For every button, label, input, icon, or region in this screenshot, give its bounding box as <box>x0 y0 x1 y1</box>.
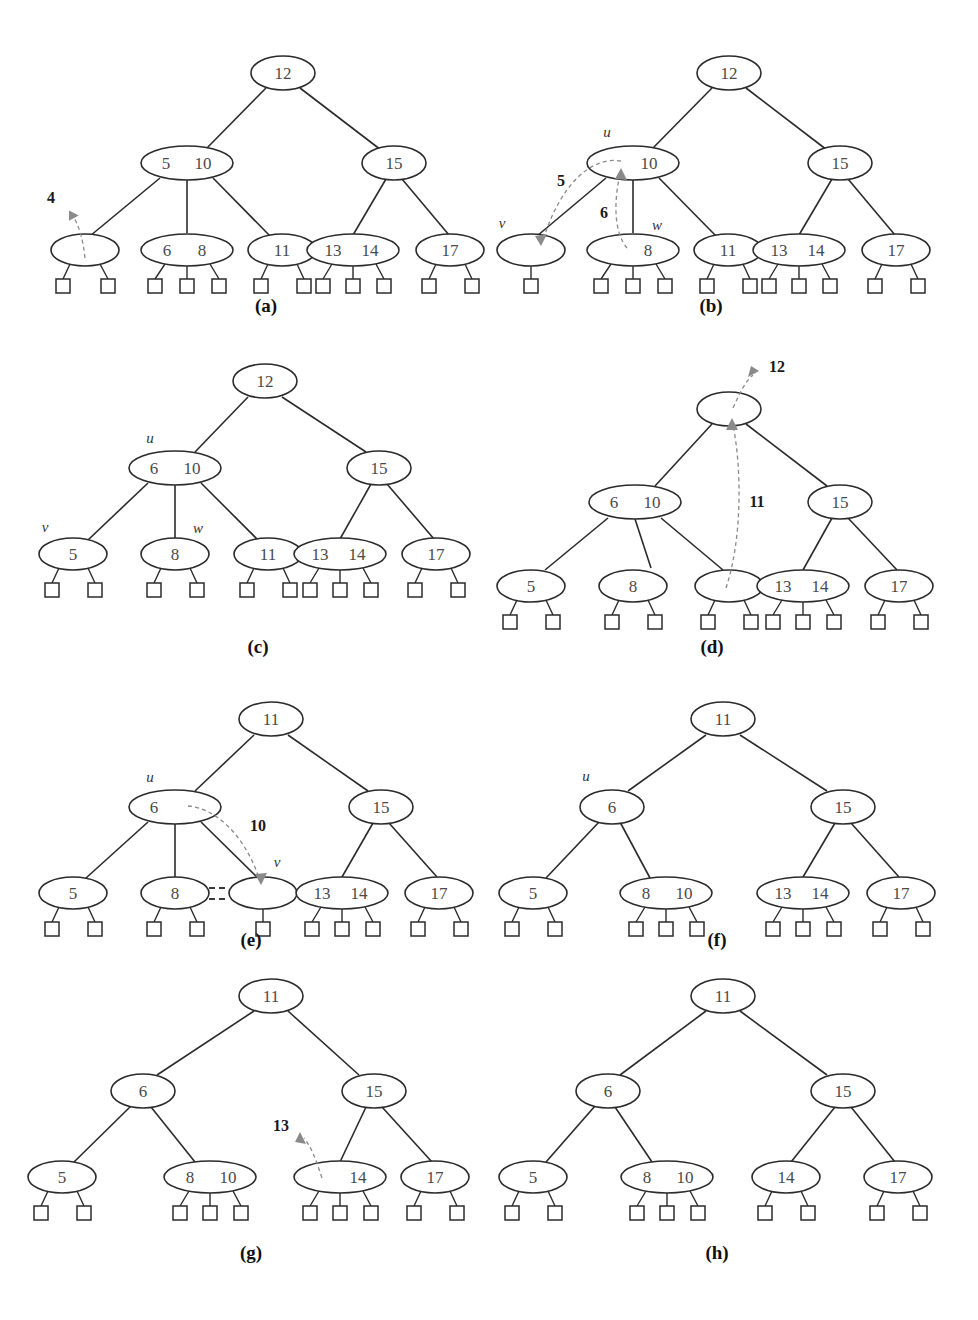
node-leaf-5-b: 17 <box>862 234 930 293</box>
external-leaf <box>827 922 841 936</box>
external-leaf <box>659 922 673 936</box>
node-v-c: 5 <box>39 538 107 597</box>
node-leaf-4-a: 13 14 <box>307 234 399 293</box>
node-v-b <box>497 234 565 293</box>
external-leaf <box>254 279 268 293</box>
edge-root-left <box>651 88 712 150</box>
node-leaf-2-g: 8 10 <box>164 1161 256 1220</box>
edge-r-c1 <box>342 823 373 877</box>
node-internal-left-g: 6 <box>111 1074 175 1108</box>
key-text: 5 <box>69 545 78 564</box>
external-leaf <box>873 922 887 936</box>
node-internal-right-g: 15 <box>342 1074 406 1108</box>
external-leaf <box>701 615 715 629</box>
key-text: 15 <box>371 459 388 478</box>
external-leaf <box>823 279 837 293</box>
edge-root-right <box>746 88 827 150</box>
external-leaf <box>173 1206 187 1220</box>
edge-r-c1 <box>791 1107 835 1162</box>
node-leaf-2-h: 8 10 <box>621 1161 713 1220</box>
key-text: 11 <box>274 241 290 260</box>
external-leaf <box>744 615 758 629</box>
external-leaf <box>505 1206 519 1220</box>
external-leaf <box>758 1206 772 1220</box>
external-leaf <box>868 279 882 293</box>
external-leaf <box>333 583 347 597</box>
key-text: 17 <box>431 884 449 903</box>
external-leaf <box>335 922 349 936</box>
edge-root-left <box>628 735 706 791</box>
node-leaf-5-a: 17 <box>416 234 484 293</box>
move-11-curve <box>726 425 739 588</box>
key-text: 17 <box>427 1168 445 1187</box>
edge-l-c1 <box>546 1106 595 1162</box>
external-leaf <box>911 279 925 293</box>
node-leaf-4-b: 13 14 <box>753 234 845 293</box>
key-text: 14 <box>350 1168 368 1187</box>
tree-deletion-figure: 12 5 10 15 6 8 11 <box>0 0 978 1320</box>
edge-u-c1 <box>537 178 606 236</box>
node-root-e: 11 <box>239 702 303 736</box>
key-text: 15 <box>835 1082 852 1101</box>
key-text: 5 <box>69 884 78 903</box>
panel-g: 11 6 15 5 8 10 14 <box>28 979 469 1264</box>
node-root-f: 11 <box>691 702 755 736</box>
node-u-f: 6 <box>580 790 644 824</box>
external-leaf <box>411 922 425 936</box>
edge-l-c2 <box>151 1107 195 1162</box>
key-text: 13 <box>775 884 792 903</box>
external-leaf <box>303 1206 317 1220</box>
external-leaf <box>505 922 519 936</box>
node-internal-right-h: 15 <box>811 1074 875 1108</box>
external-leaf <box>147 922 161 936</box>
edge-r-c1 <box>803 518 832 570</box>
node-leaf-1-d: 5 <box>497 570 565 629</box>
key-text: 6 <box>608 798 617 817</box>
key-text: 17 <box>893 884 911 903</box>
node-leaf-5-g: 17 <box>401 1161 469 1220</box>
external-leaf <box>792 279 806 293</box>
external-leaf <box>690 922 704 936</box>
key-text: 14 <box>349 545 367 564</box>
external-leaf <box>629 922 643 936</box>
move-13-label: 13 <box>273 1117 289 1134</box>
key-text: 14 <box>362 241 380 260</box>
node-leaf-4-e: 13 14 <box>296 877 388 936</box>
external-leaf <box>914 615 928 629</box>
edge-root-right <box>288 1011 359 1075</box>
key-text: 15 <box>832 154 849 173</box>
external-leaf <box>147 583 161 597</box>
external-leaf <box>407 1206 421 1220</box>
external-leaf <box>190 922 204 936</box>
key-text: 10 <box>184 459 201 478</box>
external-leaf <box>346 279 360 293</box>
external-leaf <box>56 279 70 293</box>
node-leaf-3-c: 11 <box>234 538 302 597</box>
key-text: 17 <box>890 1168 908 1187</box>
external-leaf <box>465 279 479 293</box>
node-root-c: 12 <box>233 364 297 398</box>
node-leaf-2-a: 6 8 <box>141 234 233 293</box>
external-leaf <box>871 615 885 629</box>
external-leaf <box>766 615 780 629</box>
external-leaf <box>913 1206 927 1220</box>
external-leaf <box>454 922 468 936</box>
node-leaf-2-f: 8 10 <box>620 877 712 936</box>
move-12-label: 12 <box>769 358 785 375</box>
label-v: v <box>274 854 281 870</box>
key-text: 12 <box>275 64 292 83</box>
move-11-label: 11 <box>749 493 764 510</box>
panel-f: 11 6 u 15 5 8 10 13 <box>499 702 935 951</box>
key-text: 8 <box>644 241 653 260</box>
panel-label-d: (d) <box>700 636 723 658</box>
node-leaf-4-g: 14 <box>294 1161 386 1220</box>
edge-r-c2 <box>389 823 437 877</box>
node-leaf-1-h: 5 <box>499 1161 567 1220</box>
key-text: 10 <box>676 884 693 903</box>
key-text: 15 <box>386 154 403 173</box>
external-leaf <box>801 1206 815 1220</box>
external-leaf <box>700 279 714 293</box>
key-text: 6 <box>163 241 172 260</box>
node-leaf-5-f: 17 <box>867 877 935 936</box>
edge-root-left <box>195 397 248 452</box>
